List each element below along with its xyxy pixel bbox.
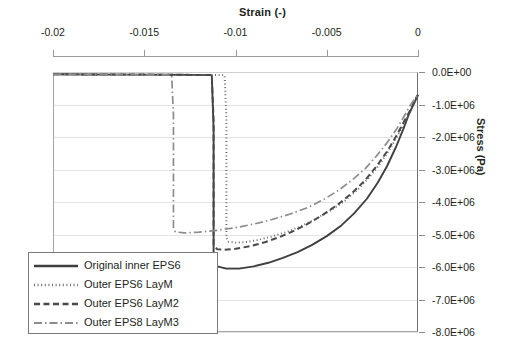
legend-item[interactable]: Original inner EPS6 bbox=[33, 256, 213, 275]
x-tick-mark bbox=[236, 50, 237, 57]
series-line-1 bbox=[53, 74, 418, 268]
legend-item[interactable]: Outer EPS8 LayM3 bbox=[33, 313, 213, 332]
y-tick-label: -8.0E+06 bbox=[432, 326, 475, 338]
legend-item[interactable]: Outer EPS6 LayM bbox=[33, 275, 213, 294]
x-axis-title: Strain (-) bbox=[0, 6, 525, 18]
y-tick-label: -5.0E+06 bbox=[432, 229, 475, 241]
y-axis-title: Stress (Pa) bbox=[475, 118, 487, 175]
y-tick-mark bbox=[419, 105, 425, 106]
y-tick-label: -3.0E+06 bbox=[432, 164, 475, 176]
x-tick-mark bbox=[144, 50, 145, 57]
y-tick-mark bbox=[419, 72, 425, 73]
y-tick-label: -7.0E+06 bbox=[432, 294, 475, 306]
y-tick-mark bbox=[419, 170, 425, 171]
y-tick-label: -4.0E+06 bbox=[432, 196, 475, 208]
x-tick-mark bbox=[418, 50, 419, 57]
x-tick-label: -0.015 bbox=[129, 26, 159, 38]
series-line-3 bbox=[53, 74, 418, 250]
x-tick-label: -0.02 bbox=[41, 26, 65, 38]
legend-label: Outer EPS8 LayM3 bbox=[84, 317, 179, 328]
legend-label: Outer EPS6 LayM2 bbox=[84, 298, 179, 309]
x-tick-label: -0.005 bbox=[312, 26, 342, 38]
legend-label: Original inner EPS6 bbox=[84, 260, 181, 271]
legend-line-swatch bbox=[33, 260, 79, 272]
x-tick-label: -0.01 bbox=[224, 26, 248, 38]
legend-label: Outer EPS6 LayM bbox=[84, 279, 173, 290]
series-line-2 bbox=[53, 74, 418, 242]
y-tick-mark bbox=[419, 332, 425, 333]
legend-line-swatch bbox=[33, 317, 79, 329]
stress-strain-chart: Strain (-) Stress (Pa) -0.02-0.015-0.01-… bbox=[0, 0, 525, 357]
y-tick-label: -6.0E+06 bbox=[432, 261, 475, 273]
chart-legend: Original inner EPS6Outer EPS6 LayMOuter … bbox=[28, 252, 218, 334]
legend-line-swatch bbox=[33, 298, 79, 310]
y-tick-mark bbox=[419, 235, 425, 236]
y-tick-mark bbox=[419, 137, 425, 138]
y-tick-label: -2.0E+06 bbox=[432, 131, 475, 143]
legend-item[interactable]: Outer EPS6 LayM2 bbox=[33, 294, 213, 313]
legend-line-swatch bbox=[33, 279, 79, 291]
y-tick-mark bbox=[419, 202, 425, 203]
series-line-4 bbox=[53, 74, 418, 233]
x-tick-mark bbox=[53, 50, 54, 57]
x-tick-label: 0 bbox=[415, 26, 421, 38]
x-tick-mark bbox=[327, 50, 328, 57]
y-tick-label: -1.0E+06 bbox=[432, 99, 475, 111]
y-tick-label: 0.0E+00 bbox=[432, 66, 471, 78]
y-tick-mark bbox=[419, 267, 425, 268]
y-tick-mark bbox=[419, 300, 425, 301]
